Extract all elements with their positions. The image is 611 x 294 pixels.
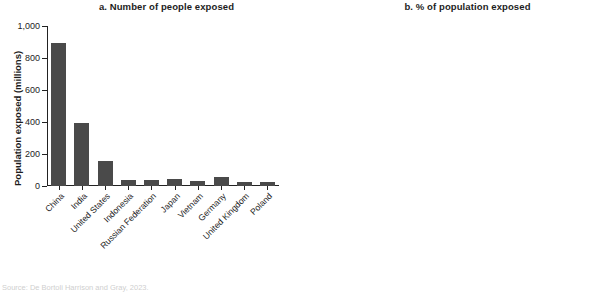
- bar: [214, 177, 229, 186]
- x-tick: [151, 186, 152, 190]
- bar: [167, 179, 182, 186]
- panel-a-y-axis-title: Population exposed (millions): [12, 51, 23, 186]
- panel-b-percent-of-population-exposed: b. % of population exposed % of populati…: [306, 0, 611, 294]
- panel-a-title: a. Number of people exposed: [0, 1, 305, 12]
- bar: [74, 123, 89, 186]
- y-tick-label: 0: [35, 181, 40, 191]
- panel-a-plot-area: 02004006008001,000 ChinaIndiaUnited Stat…: [47, 26, 279, 186]
- y-tick-label: 800: [25, 53, 40, 63]
- x-tick: [267, 186, 268, 190]
- panel-a-bars: [47, 26, 279, 186]
- figure-two-panel-bar-charts: a. Number of people exposed Population e…: [0, 0, 611, 294]
- x-tick: [128, 186, 129, 190]
- y-tick-label: 600: [25, 85, 40, 95]
- x-tick: [82, 186, 83, 190]
- y-tick-label: 200: [25, 149, 40, 159]
- x-tick: [198, 186, 199, 190]
- bar: [51, 43, 66, 186]
- x-tick-label: Poland: [248, 191, 274, 217]
- x-tick: [105, 186, 106, 190]
- y-tick-label: 1,000: [17, 21, 40, 31]
- x-tick: [221, 186, 222, 190]
- x-tick: [59, 186, 60, 190]
- y-tick: [42, 186, 47, 187]
- source-note: Source: De Bortoli Harrison and Gray, 20…: [2, 283, 149, 292]
- panel-a-number-of-people-exposed: a. Number of people exposed Population e…: [0, 0, 305, 294]
- x-tick: [244, 186, 245, 190]
- x-tick: [175, 186, 176, 190]
- y-tick-label: 400: [25, 117, 40, 127]
- panel-b-title: b. % of population exposed: [306, 1, 611, 12]
- x-tick-label: China: [43, 191, 66, 214]
- bar: [98, 161, 113, 186]
